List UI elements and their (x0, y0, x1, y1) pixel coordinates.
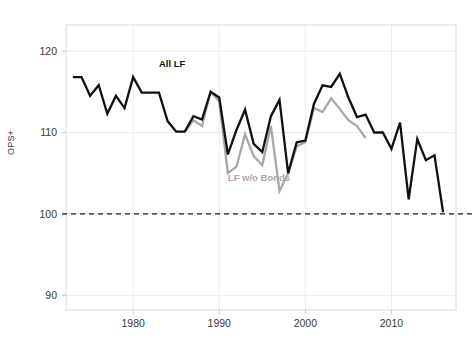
chart-canvas: 901001101201980199020002010All LFLF w/o … (0, 0, 474, 342)
x-tick-label-1980: 1980 (121, 317, 145, 329)
series-label-all-lf: All LF (159, 58, 186, 69)
x-tick-label-1990: 1990 (208, 317, 232, 329)
x-tick-label-2010: 2010 (380, 317, 404, 329)
y-tick-label-110: 110 (40, 126, 57, 138)
y-tick-label-100: 100 (39, 208, 57, 220)
chart-figure: OPS+ 901001101201980199020002010All LFLF… (0, 0, 474, 342)
y-tick-label-120: 120 (39, 45, 57, 57)
x-tick-label-2000: 2000 (294, 317, 318, 329)
plot-background (66, 25, 456, 310)
y-tick-label-90: 90 (45, 289, 57, 301)
series-label-lf-w-o-bonds: LF w/o Bonds (228, 172, 290, 183)
